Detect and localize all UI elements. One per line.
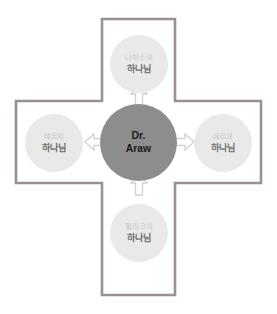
node-left-label: 하나님 bbox=[42, 142, 66, 154]
node-left-sublabel: 에트의 bbox=[44, 132, 65, 142]
node-bottom-label: 하나님 bbox=[127, 232, 151, 244]
node-top-label: 하나님 bbox=[127, 63, 151, 75]
node-top-sublabel: 나하스의 bbox=[125, 53, 153, 63]
node-bottom[interactable]: 할라크의 하나님 bbox=[110, 204, 168, 262]
node-right-label: 하나님 bbox=[211, 142, 235, 154]
node-right-sublabel: 에트의 bbox=[213, 132, 234, 142]
node-bottom-sublabel: 할라크의 bbox=[125, 222, 153, 232]
node-top[interactable]: 나하스의 하나님 bbox=[110, 35, 168, 93]
node-center-label-line1: Dr. bbox=[132, 130, 146, 143]
node-center[interactable]: Dr. Araw bbox=[100, 104, 177, 181]
diagram-canvas: 나하스의 하나님 에트의 하나님 할라크의 하나님 에트의 하나님 Dr. Ar… bbox=[0, 0, 277, 314]
node-center-label-line2: Araw bbox=[126, 143, 151, 156]
node-right[interactable]: 에트의 하나님 bbox=[194, 114, 252, 172]
node-left[interactable]: 에트의 하나님 bbox=[25, 114, 83, 172]
